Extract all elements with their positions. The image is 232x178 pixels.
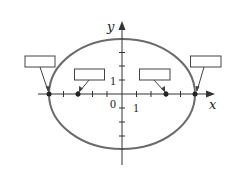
right-vertex-point — [193, 92, 198, 97]
left-focus-label-box[interactable] — [75, 69, 105, 80]
y-axis — [119, 21, 126, 165]
ellipse-diagram: x y 0 1 1 — [0, 0, 232, 178]
left-focus-point — [76, 92, 81, 97]
right-focus-label-box[interactable] — [140, 69, 171, 80]
x-axis-label: x — [209, 97, 217, 112]
left-focus-arrow-icon — [79, 86, 83, 93]
x-unit-label: 1 — [133, 101, 139, 115]
origin-label: 0 — [110, 97, 116, 111]
left-vertex-point — [47, 92, 52, 97]
y-axis-label: y — [106, 19, 115, 34]
right-vertex-label-box[interactable] — [191, 56, 222, 67]
y-unit-label: 1 — [110, 74, 116, 88]
right-focus-arrow-icon — [161, 86, 165, 93]
left-vertex-label-box[interactable] — [25, 56, 55, 67]
right-vertex-arrow-icon — [196, 86, 200, 92]
x-axis — [38, 91, 215, 98]
right-focus-point — [164, 92, 169, 97]
y-axis-arrow-icon — [119, 21, 126, 30]
